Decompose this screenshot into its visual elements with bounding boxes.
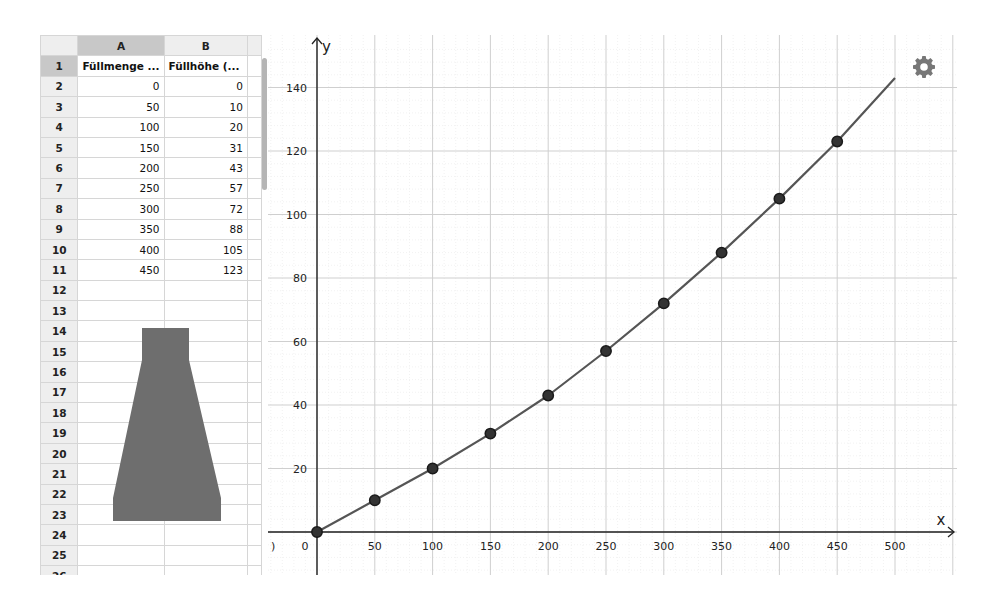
- data-point[interactable]: [659, 298, 669, 308]
- row-header[interactable]: 8: [41, 199, 78, 219]
- x-tick-label: 50: [368, 540, 382, 553]
- cell-b[interactable]: [164, 362, 247, 382]
- row-header[interactable]: 22: [41, 484, 78, 504]
- cell-b1[interactable]: Füllhöhe (...: [164, 56, 247, 76]
- cell-empty: [247, 137, 261, 157]
- corner-cell[interactable]: [41, 36, 78, 56]
- cell-a1[interactable]: Füllmenge ...: [78, 56, 164, 76]
- row-header[interactable]: 23: [41, 504, 78, 524]
- cell-b[interactable]: [164, 525, 247, 545]
- cell-b[interactable]: [164, 341, 247, 361]
- cell-a[interactable]: [78, 341, 164, 361]
- row-header[interactable]: 4: [41, 117, 78, 137]
- cell-a[interactable]: [78, 484, 164, 504]
- cell-b[interactable]: 43: [164, 158, 247, 178]
- gear-icon[interactable]: [912, 55, 936, 79]
- cell-a[interactable]: 200: [78, 158, 164, 178]
- row-header[interactable]: 9: [41, 219, 78, 239]
- row-header[interactable]: 10: [41, 239, 78, 259]
- row-header[interactable]: 24: [41, 525, 78, 545]
- cell-a[interactable]: [78, 362, 164, 382]
- cell-a[interactable]: [78, 545, 164, 565]
- cell-empty: [247, 403, 261, 423]
- cell-b[interactable]: 20: [164, 117, 247, 137]
- row-header[interactable]: 14: [41, 321, 78, 341]
- cell-b[interactable]: [164, 280, 247, 300]
- row-header[interactable]: 16: [41, 362, 78, 382]
- cell-a[interactable]: [78, 301, 164, 321]
- cell-b[interactable]: 123: [164, 260, 247, 280]
- data-point[interactable]: [312, 527, 322, 537]
- data-point[interactable]: [774, 193, 784, 203]
- data-point[interactable]: [370, 495, 380, 505]
- cell-a[interactable]: 100: [78, 117, 164, 137]
- cell-b[interactable]: 105: [164, 239, 247, 259]
- graphics-view[interactable]: yx050100150200250300350400450500)2040608…: [268, 35, 957, 575]
- spreadsheet-scrollbar[interactable]: [262, 58, 267, 190]
- cell-b[interactable]: [164, 484, 247, 504]
- cell-a[interactable]: [78, 423, 164, 443]
- cell-a[interactable]: [78, 403, 164, 423]
- cell-b[interactable]: [164, 545, 247, 565]
- row-header[interactable]: 18: [41, 403, 78, 423]
- cell-a[interactable]: [78, 382, 164, 402]
- cell-a[interactable]: 250: [78, 178, 164, 198]
- row-header[interactable]: 20: [41, 443, 78, 463]
- cell-a[interactable]: [78, 464, 164, 484]
- cell-b[interactable]: [164, 423, 247, 443]
- data-point[interactable]: [716, 247, 726, 257]
- column-header-b[interactable]: B: [164, 36, 247, 56]
- cell-a[interactable]: [78, 566, 164, 575]
- row-header[interactable]: 5: [41, 137, 78, 157]
- data-point[interactable]: [832, 136, 842, 146]
- cell-b[interactable]: 88: [164, 219, 247, 239]
- row-header[interactable]: 15: [41, 341, 78, 361]
- data-point[interactable]: [427, 463, 437, 473]
- row-header[interactable]: 13: [41, 301, 78, 321]
- cell-b[interactable]: 10: [164, 97, 247, 117]
- row-header[interactable]: 21: [41, 464, 78, 484]
- cell-a[interactable]: 0: [78, 76, 164, 96]
- cell-b[interactable]: [164, 301, 247, 321]
- cell-b[interactable]: 31: [164, 137, 247, 157]
- row-header[interactable]: 12: [41, 280, 78, 300]
- row-header[interactable]: 17: [41, 382, 78, 402]
- cell-b[interactable]: [164, 566, 247, 575]
- cell-b[interactable]: [164, 321, 247, 341]
- cell-empty: [247, 178, 261, 198]
- cell-a[interactable]: 350: [78, 219, 164, 239]
- cell-a[interactable]: [78, 525, 164, 545]
- cell-b[interactable]: [164, 504, 247, 524]
- cell-b[interactable]: 0: [164, 76, 247, 96]
- row-header[interactable]: 2: [41, 76, 78, 96]
- cell-b[interactable]: 57: [164, 178, 247, 198]
- cell-b[interactable]: 72: [164, 199, 247, 219]
- cell-a[interactable]: 150: [78, 137, 164, 157]
- row-header[interactable]: 26: [41, 566, 78, 575]
- row-header[interactable]: 19: [41, 423, 78, 443]
- cell-a[interactable]: 50: [78, 97, 164, 117]
- cell-a[interactable]: 400: [78, 239, 164, 259]
- cell-a[interactable]: [78, 504, 164, 524]
- data-point[interactable]: [601, 346, 611, 356]
- cell-b[interactable]: [164, 443, 247, 463]
- cell-b[interactable]: [164, 382, 247, 402]
- row-header[interactable]: 1: [41, 56, 78, 76]
- cell-a[interactable]: 300: [78, 199, 164, 219]
- cell-a[interactable]: [78, 443, 164, 463]
- cell-b[interactable]: [164, 403, 247, 423]
- cell-a[interactable]: [78, 280, 164, 300]
- row-header[interactable]: 3: [41, 97, 78, 117]
- data-point[interactable]: [485, 428, 495, 438]
- column-header-a[interactable]: A: [78, 36, 164, 56]
- cell-empty: [247, 525, 261, 545]
- cell-a[interactable]: 450: [78, 260, 164, 280]
- row-header[interactable]: 6: [41, 158, 78, 178]
- cell-b[interactable]: [164, 464, 247, 484]
- row-header[interactable]: 7: [41, 178, 78, 198]
- cell-a[interactable]: [78, 321, 164, 341]
- data-point[interactable]: [543, 390, 553, 400]
- row-header[interactable]: 11: [41, 260, 78, 280]
- row-header[interactable]: 25: [41, 545, 78, 565]
- y-tick-label: 100: [286, 209, 307, 222]
